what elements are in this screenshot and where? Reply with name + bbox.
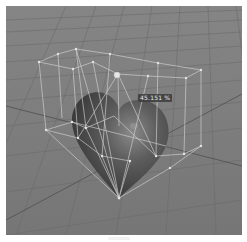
caption-mark	[108, 237, 130, 240]
percent-label: 45.151 %	[138, 94, 172, 102]
3d-viewport[interactable]: 45.151 %	[6, 6, 242, 235]
selected-vertex-handle[interactable]	[114, 72, 120, 78]
scene-canvas[interactable]	[6, 6, 242, 235]
